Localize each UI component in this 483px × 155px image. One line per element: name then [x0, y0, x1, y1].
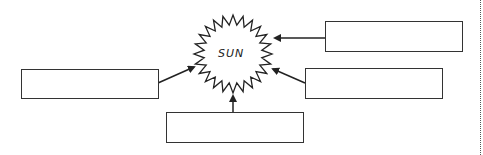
box-left-input[interactable] [22, 70, 158, 98]
box-middle-right[interactable] [305, 68, 443, 99]
diagram-canvas: SUN [0, 0, 483, 155]
arrow-left-to-sun [158, 67, 194, 83]
box-left[interactable] [21, 69, 159, 99]
box-bottom[interactable] [166, 112, 304, 143]
box-middle-right-input[interactable] [306, 69, 442, 98]
dotted-margin-line [480, 0, 481, 155]
box-bottom-input[interactable] [167, 113, 303, 142]
sun-label: SUN [218, 47, 244, 60]
box-top-right[interactable] [325, 21, 463, 52]
box-top-right-input[interactable] [326, 22, 462, 51]
arrow-middle-right-to-sun [273, 69, 305, 83]
